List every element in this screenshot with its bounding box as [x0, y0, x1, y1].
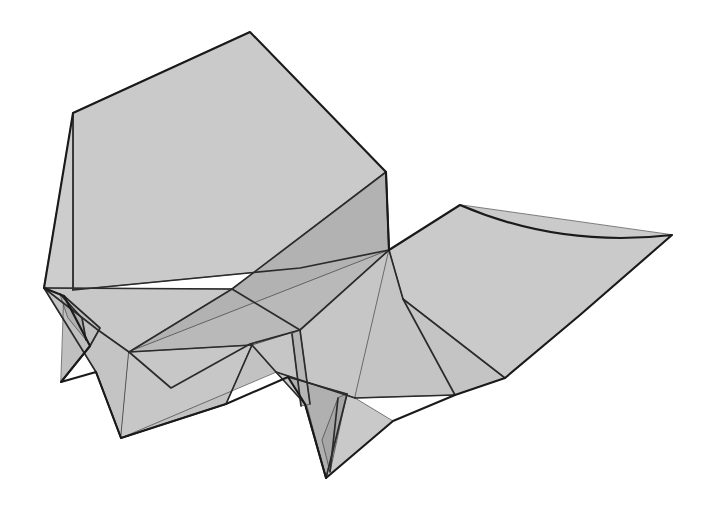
origami-figure: Folded paper origami form Line-art shade…: [0, 0, 702, 512]
figure-canvas: Folded paper origami form Line-art shade…: [0, 0, 702, 512]
crease-left-fan-a: [44, 288, 232, 289]
